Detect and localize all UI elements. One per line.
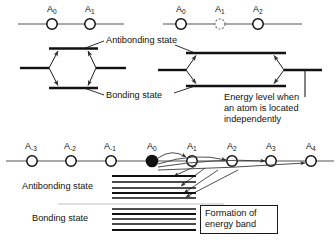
formation-callout-line1: Formation of	[205, 208, 273, 219]
three-atom-level-diagram	[158, 45, 322, 97]
isolated-atom-note-line3: independently	[224, 114, 299, 125]
atom-label-A3-band: A3	[266, 141, 276, 152]
isolated-atom-note: Energy level when an atom is located ind…	[224, 92, 299, 125]
formation-callout-box: Formation of energy band	[200, 205, 278, 234]
two-atom-level-diagram	[20, 41, 126, 95]
atom-node-A4-band	[306, 156, 316, 166]
atom-node-A0-right	[176, 19, 186, 29]
atom-label-A0-right: A0	[176, 4, 186, 15]
formation-callout-line2: energy band	[205, 219, 273, 230]
atom-label-A4-band: A4	[306, 141, 316, 152]
atom-node-A0-center	[146, 155, 157, 166]
three-atom-chain	[163, 19, 302, 29]
atom-label-A1-band: A1	[187, 141, 197, 152]
atom-node-Am1	[106, 156, 116, 166]
isolated-atom-note-line2: an atom is located	[224, 103, 299, 114]
antibonding-leader-2	[175, 45, 195, 53]
bonding-band-label: Bonding state	[32, 213, 88, 224]
antibonding-band-label: Antibonding state	[22, 181, 93, 192]
atom-label-A0: A0	[47, 4, 57, 15]
two-atom-chain	[18, 19, 124, 29]
atom-node-A2-band	[227, 156, 237, 166]
atom-label-A0-center: A0	[147, 141, 157, 152]
bonding-state-callout: Bonding state	[106, 90, 162, 101]
atom-label-A2: A2	[253, 4, 263, 15]
atom-label-Am1: A-1	[104, 141, 116, 152]
atom-node-Am2	[66, 156, 76, 166]
atom-label-Am2: A-2	[64, 141, 76, 152]
antibonding-state-callout: Antibonding state	[106, 35, 177, 46]
atom-node-A2	[253, 19, 263, 29]
atom-node-Am3	[27, 156, 37, 166]
atom-label-A2-band: A2	[227, 141, 237, 152]
atom-node-A1	[85, 19, 95, 29]
bonding-leader-2	[174, 86, 195, 93]
bonding-band-levels	[112, 209, 196, 230]
atom-label-A1: A1	[85, 4, 95, 15]
antibonding-band-levels	[112, 176, 196, 198]
atom-label-A1-dashed: A1	[215, 4, 225, 15]
isolated-atom-note-line1: Energy level when	[224, 92, 299, 103]
atom-label-Am3: A-3	[25, 141, 37, 152]
atom-node-A0	[47, 19, 57, 29]
atom-node-A1-dashed	[215, 19, 225, 29]
figure-canvas: A0 A1 A0 A1 A2 Antibonding state Bonding…	[0, 0, 336, 247]
